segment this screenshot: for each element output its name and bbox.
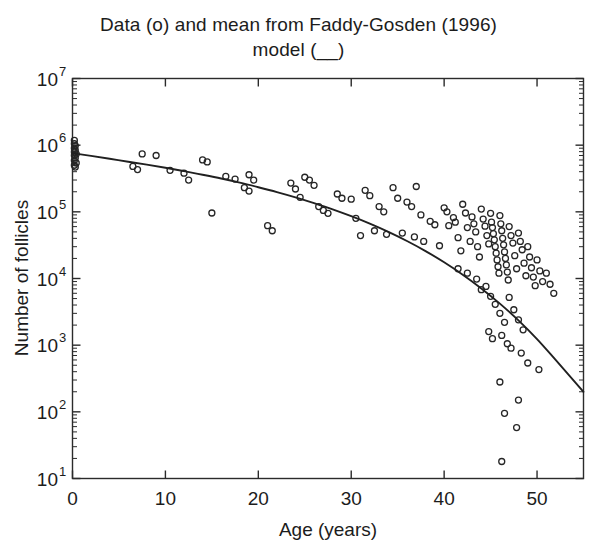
x-axis-label: Age (years) (279, 519, 377, 540)
data-point (511, 307, 517, 313)
data-point (135, 167, 141, 173)
data-point (515, 230, 521, 236)
data-point (497, 310, 503, 316)
svg-text:6: 6 (59, 130, 66, 145)
data-point (518, 350, 524, 356)
svg-text:10: 10 (37, 69, 58, 90)
data-point (547, 281, 553, 287)
x-tick-label-30: 30 (341, 488, 362, 509)
y-tick-label-3: 103 (37, 330, 66, 356)
data-point (376, 204, 382, 210)
data-point (502, 255, 508, 261)
data-point (469, 214, 475, 220)
svg-text:10: 10 (37, 402, 58, 423)
y-tick-label-1: 101 (37, 464, 66, 490)
data-point (246, 188, 252, 194)
data-point (527, 254, 533, 260)
data-point (525, 244, 531, 250)
data-point (503, 262, 509, 268)
data-point (246, 172, 252, 178)
data-point (458, 248, 464, 254)
data-point (500, 235, 506, 241)
data-point (499, 332, 505, 338)
data-point (489, 336, 495, 342)
data-point (139, 151, 145, 157)
svg-text:4: 4 (59, 264, 66, 279)
data-point (306, 177, 312, 183)
svg-text:3: 3 (59, 330, 66, 345)
data-point (521, 260, 527, 266)
data-point (491, 237, 497, 243)
data-point (367, 193, 373, 199)
axis-ticks (73, 79, 584, 479)
data-point (532, 283, 538, 289)
svg-text:2: 2 (59, 397, 66, 412)
data-point (348, 196, 354, 202)
data-point (490, 231, 496, 237)
data-point (269, 228, 275, 234)
data-point (502, 319, 508, 325)
svg-text:7: 7 (59, 64, 66, 79)
data-point (510, 240, 516, 246)
data-point (409, 204, 415, 210)
data-point (543, 270, 549, 276)
data-point (473, 229, 479, 235)
data-point (514, 425, 520, 431)
data-point (292, 186, 298, 192)
y-tick-label-6: 106 (37, 130, 66, 156)
data-point (508, 233, 514, 239)
svg-text:10: 10 (37, 135, 58, 156)
data-point (504, 269, 510, 275)
data-point (446, 223, 452, 229)
data-point (436, 243, 442, 249)
svg-text:10: 10 (37, 202, 58, 223)
data-point (186, 177, 192, 183)
data-point (512, 253, 518, 259)
data-point (486, 241, 492, 247)
data-point (496, 270, 502, 276)
data-point (499, 228, 505, 234)
x-tick-label-10: 10 (155, 488, 176, 509)
data-point (476, 254, 482, 260)
data-point (502, 410, 508, 416)
data-point (497, 379, 503, 385)
data-point (530, 274, 536, 280)
data-point (251, 177, 257, 183)
data-point (421, 238, 427, 244)
data-point (528, 265, 534, 271)
x-tick-labels: 01020304050 (67, 488, 547, 509)
data-point (525, 360, 531, 366)
scatter-series (71, 137, 556, 464)
data-point (371, 228, 377, 234)
data-point (464, 270, 470, 276)
data-point (413, 183, 419, 189)
data-point (537, 268, 543, 274)
data-point (499, 458, 505, 464)
x-tick-label-50: 50 (526, 488, 547, 509)
data-point (339, 195, 345, 201)
figure-container: Data (o) and mean from Faddy-Gosden (199… (0, 0, 597, 548)
svg-text:10: 10 (37, 335, 58, 356)
x-tick-label-40: 40 (434, 488, 455, 509)
data-point (495, 264, 501, 270)
svg-text:1: 1 (59, 464, 66, 479)
data-point (482, 223, 488, 229)
data-point (497, 213, 503, 219)
data-point (381, 209, 387, 215)
data-point (467, 238, 473, 244)
data-point (265, 223, 271, 229)
data-point (506, 224, 512, 230)
data-point (517, 238, 523, 244)
y-tick-label-5: 105 (37, 197, 66, 223)
svg-text:10: 10 (37, 269, 58, 290)
data-point (484, 233, 490, 239)
data-point (455, 235, 461, 241)
data-point (515, 397, 521, 403)
data-point (508, 345, 514, 351)
data-point (325, 210, 331, 216)
data-point (358, 233, 364, 239)
data-point (209, 210, 215, 216)
data-point (486, 329, 492, 335)
y-tick-label-4: 104 (37, 264, 66, 290)
data-point (464, 225, 470, 231)
